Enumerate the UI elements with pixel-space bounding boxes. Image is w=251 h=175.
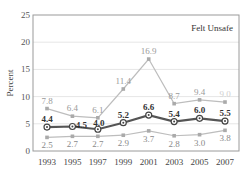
data-point-marker [71,114,75,118]
data-label: 6.0 [194,105,206,115]
data-point-marker [71,135,75,139]
data-point-marker [45,136,49,140]
x-tick-label: 1999 [114,157,133,167]
data-point-marker [172,102,176,106]
x-tick-label: 2005 [191,157,210,167]
data-label: 5.2 [118,110,130,120]
data-label: 4.5 [76,120,88,130]
data-point-marker [172,134,176,138]
chart-title: Felt Unsafe [191,23,233,33]
felt-unsafe-line-chart: 0510152025 19931995199719992001200320052… [0,0,251,175]
data-point-marker-dot [97,128,99,130]
data-point-marker [223,129,227,133]
data-label: 2.7 [92,139,104,149]
data-label: 2.5 [41,140,53,150]
data-point-marker-dot [46,126,48,128]
data-point-marker [96,135,100,139]
x-tick-label: 1997 [89,157,108,167]
data-point-marker [121,133,125,137]
x-tick-label: 2007 [216,157,235,167]
y-tick-label: 20 [21,37,31,47]
data-label: 16.9 [141,46,157,56]
data-label: 2.8 [169,139,181,149]
y-axis-label: Percent [5,69,15,96]
data-label: 4.4 [41,114,53,124]
x-tick-label: 2003 [165,157,184,167]
y-tick-label: 10 [21,92,31,102]
data-label: 3.7 [143,134,155,144]
data-label: 6.1 [92,105,103,115]
data-point-marker-dot [122,122,124,124]
data-label: 7.8 [41,96,53,106]
x-axis-ticks: 19931995199719992001200320052007 [38,157,235,167]
data-point-marker-dot [173,121,175,123]
gridlines [33,42,239,124]
data-label: 5.5 [219,108,231,118]
x-tick-label: 1995 [63,157,82,167]
data-point-marker-dot [148,114,150,116]
data-point-marker [198,98,202,102]
data-label: 8.7 [169,91,181,101]
y-tick-label: 15 [21,64,31,74]
data-point-marker [198,133,202,137]
data-point-marker-dot [224,120,226,122]
data-point-marker [45,107,49,111]
y-tick-label: 0 [26,146,31,156]
data-point-marker-dot [71,126,73,128]
data-label: 9.4 [194,87,206,97]
data-label: 6.4 [67,103,79,113]
data-label: 2.7 [67,139,79,149]
y-tick-label: 5 [26,119,31,129]
data-label: 5.4 [169,109,181,119]
x-tick-label: 2001 [140,157,158,167]
y-tick-label: 25 [21,10,31,20]
data-point-marker [147,57,151,61]
data-point-marker [223,100,227,104]
data-label: 9.0 [219,89,231,99]
data-label: 2.9 [118,138,130,148]
x-tick-label: 1993 [38,157,57,167]
data-label: 6.6 [143,102,155,112]
data-label: 11.4 [116,76,132,86]
plot-frame [33,15,239,151]
data-point-marker-dot [199,117,201,119]
data-label: 3.0 [194,138,206,148]
y-axis-ticks: 0510152025 [21,10,31,156]
data-point-marker [121,87,125,91]
data-point-marker [147,129,151,133]
data-label: 3.8 [219,133,231,143]
data-label: 4.0 [93,118,105,128]
